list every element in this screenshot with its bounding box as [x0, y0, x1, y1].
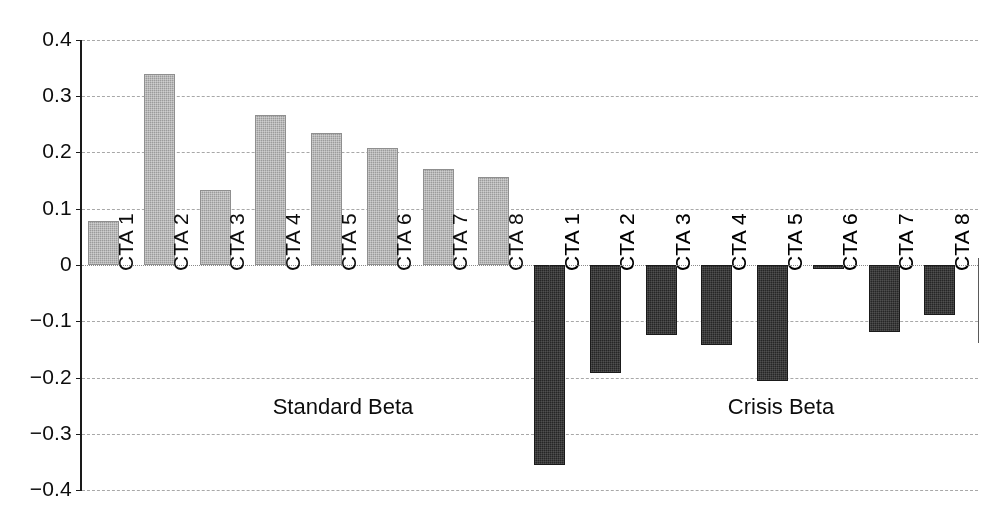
- category-label: CTA 8: [950, 213, 974, 271]
- group-label-crisis-beta: Crisis Beta: [728, 394, 834, 420]
- bar-crisis-beta: [646, 265, 677, 335]
- y-axis-tick-mark: [76, 40, 82, 41]
- y-axis-tick-mark: [76, 490, 82, 491]
- bar-crisis-beta: [924, 265, 955, 315]
- category-label: CTA 4: [727, 213, 751, 271]
- gridline: [82, 321, 978, 322]
- category-label: CTA 3: [671, 213, 695, 271]
- gridline: [82, 40, 978, 41]
- category-label: CTA 4: [281, 213, 305, 271]
- bar-crisis-beta: [590, 265, 621, 373]
- category-label: CTA 7: [448, 213, 472, 271]
- category-label: CTA 5: [783, 213, 807, 271]
- category-label: CTA 7: [894, 213, 918, 271]
- y-axis-tick-label: 0: [0, 252, 72, 276]
- bar-crisis-beta: [869, 265, 900, 332]
- y-axis-tick-label: −0.3: [0, 421, 72, 445]
- y-axis-tick-mark: [76, 209, 82, 210]
- y-axis-tick-mark: [76, 96, 82, 97]
- bar-crisis-beta: [701, 265, 732, 345]
- y-axis-tick-label: 0.1: [0, 196, 72, 220]
- y-axis-tick-mark: [76, 434, 82, 435]
- category-label: CTA 3: [225, 213, 249, 271]
- category-label: CTA 1: [114, 213, 138, 271]
- y-axis-tick-mark: [76, 321, 82, 322]
- group-divider: [549, 265, 550, 343]
- category-label: CTA 6: [392, 213, 416, 271]
- bar-crisis-beta: [757, 265, 788, 381]
- y-axis-tick-label: 0.3: [0, 83, 72, 107]
- y-axis-tick-label: −0.2: [0, 365, 72, 389]
- gridline: [82, 152, 978, 153]
- gridline: [82, 490, 978, 491]
- bar-chart: 0.40.30.20.10−0.1−0.2−0.3−0.4 CTA 1CTA 2…: [0, 0, 1007, 517]
- y-axis-tick-label: −0.4: [0, 477, 72, 501]
- gridline: [82, 378, 978, 379]
- y-axis-tick-label: −0.1: [0, 308, 72, 332]
- y-axis-tick-mark: [76, 378, 82, 379]
- category-label: CTA 6: [838, 213, 862, 271]
- y-axis-tick-label: 0.2: [0, 139, 72, 163]
- category-label: CTA 2: [615, 213, 639, 271]
- category-label: CTA 2: [169, 213, 193, 271]
- gridline: [82, 96, 978, 97]
- category-label: CTA 5: [337, 213, 361, 271]
- category-label: CTA 1: [560, 213, 584, 271]
- y-axis-tick-mark: [76, 265, 82, 266]
- y-axis-tick-label: 0.4: [0, 27, 72, 51]
- gridline: [82, 434, 978, 435]
- group-label-standard-beta: Standard Beta: [273, 394, 414, 420]
- category-label: CTA 8: [504, 213, 528, 271]
- y-axis-tick-mark: [76, 152, 82, 153]
- plot-right-edge: [978, 258, 979, 343]
